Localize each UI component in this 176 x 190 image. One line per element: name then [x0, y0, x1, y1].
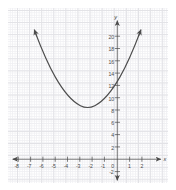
x-tick-label--1: -1: [101, 163, 105, 169]
x-tick-label--4: -4: [64, 163, 68, 169]
x-tick-label-1: 1: [128, 163, 131, 169]
y-tick-label-10: 10: [109, 96, 114, 102]
x-tick-label--6: -6: [39, 163, 43, 169]
y-tick-label-12: 12: [109, 83, 114, 89]
y-tick-label-8: 8: [111, 108, 114, 114]
y-tick-label-2: 2: [111, 145, 114, 151]
y-tick-label--2: -2: [109, 169, 113, 175]
graph-plot-area: [0, 0, 176, 190]
parabola-curve: [35, 31, 141, 108]
x-tick-label--7: -7: [27, 163, 31, 169]
y-tick-label-20: 20: [109, 34, 114, 40]
x-tick-label--3: -3: [76, 163, 80, 169]
y-tick-label-14: 14: [109, 71, 114, 77]
y-axis-label: y: [114, 14, 117, 20]
x-tick-label-2: 2: [140, 163, 143, 169]
y-tick-label-18: 18: [109, 46, 114, 52]
parabola-right-arrow: [138, 30, 141, 37]
x-tick-label-0: 0: [111, 163, 114, 169]
x-tick-label--8: -8: [15, 163, 19, 169]
parabola-left-arrow: [34, 30, 37, 37]
parabola-graph-figure: -8 -7 -6 -5 -4 -3 -2 -1 0 1 2 -2 2 4 6 8…: [0, 0, 176, 190]
y-tick-label-4: 4: [111, 132, 114, 138]
y-tick-label-16: 16: [109, 59, 114, 65]
y-tick-label-6: 6: [111, 120, 114, 126]
x-tick-label--2: -2: [88, 163, 92, 169]
x-axis-label: x: [164, 156, 167, 162]
x-tick-label--5: -5: [52, 163, 56, 169]
